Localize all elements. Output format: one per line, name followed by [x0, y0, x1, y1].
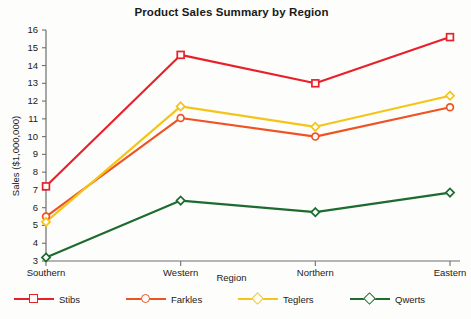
chart-legend: StibsFarklesTeglersQwerts [0, 290, 463, 312]
data-point-marker [312, 133, 319, 140]
x-tick-label: Eastern [405, 268, 471, 278]
legend-label: Qwerts [395, 294, 425, 305]
legend-swatch [14, 292, 54, 306]
data-point-marker [311, 123, 319, 131]
y-tick-label: 10 [20, 132, 38, 142]
legend-marker-circle-icon [141, 294, 150, 303]
data-point-marker [447, 34, 454, 41]
y-tick-label: 3 [20, 256, 38, 266]
series-line-teglers [46, 96, 450, 222]
x-tick-label: Southern [1, 268, 91, 278]
legend-swatch [126, 292, 166, 306]
y-tick-label: 15 [20, 43, 38, 53]
legend-item-teglers[interactable]: Teglers [238, 290, 314, 308]
data-point-marker [177, 115, 184, 122]
x-tick-label: Western [136, 268, 226, 278]
legend-item-qwerts[interactable]: Qwerts [350, 290, 425, 308]
data-point-marker [447, 104, 454, 111]
legend-item-stibs[interactable]: Stibs [14, 290, 80, 308]
y-tick-label: 6 [20, 203, 38, 213]
y-tick-label: 4 [20, 238, 38, 248]
legend-label: Teglers [283, 294, 314, 305]
legend-marker-square-icon [29, 294, 38, 303]
series-line-qwerts [46, 193, 450, 258]
data-point-marker [177, 51, 184, 58]
legend-item-farkles[interactable]: Farkles [126, 290, 202, 308]
data-point-marker [312, 80, 319, 87]
legend-label: Farkles [171, 294, 202, 305]
data-point-marker [446, 188, 454, 196]
y-tick-label: 11 [20, 114, 38, 124]
legend-label: Stibs [59, 294, 80, 305]
y-tick-label: 7 [20, 185, 38, 195]
data-point-marker [43, 183, 50, 190]
y-tick-label: 8 [20, 167, 38, 177]
y-tick-label: 13 [20, 78, 38, 88]
data-point-marker [177, 196, 185, 204]
legend-marker-diamond-icon [251, 292, 264, 305]
y-tick-label: 12 [20, 96, 38, 106]
data-point-marker [42, 253, 50, 261]
x-tick-label: Northern [270, 268, 360, 278]
data-point-marker [446, 92, 454, 100]
series-line-stibs [46, 37, 450, 186]
y-tick-label: 16 [20, 25, 38, 35]
y-tick-label: 9 [20, 149, 38, 159]
legend-marker-diamond-icon [363, 292, 376, 305]
y-tick-label: 14 [20, 61, 38, 71]
series-line-farkles [46, 107, 450, 216]
legend-swatch [350, 292, 390, 306]
legend-swatch [238, 292, 278, 306]
y-tick-label: 5 [20, 220, 38, 230]
data-point-marker [311, 208, 319, 216]
